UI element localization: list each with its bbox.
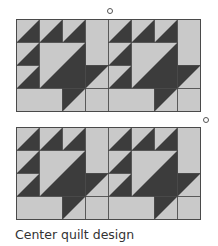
registration-marker-top <box>107 8 113 14</box>
registration-marker-right <box>203 117 209 123</box>
figure-caption: Center quilt design <box>15 227 134 242</box>
quilt-panel-bottom <box>16 127 200 221</box>
quilt-panel-top <box>16 19 200 113</box>
